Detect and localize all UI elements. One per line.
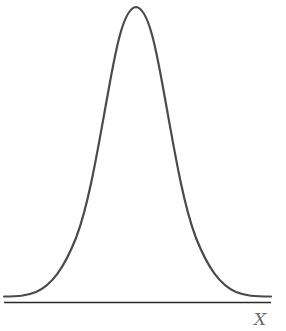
bell-curve [4,7,271,297]
bell-curve-figure: X [0,0,286,331]
x-axis-label: X [252,309,267,329]
